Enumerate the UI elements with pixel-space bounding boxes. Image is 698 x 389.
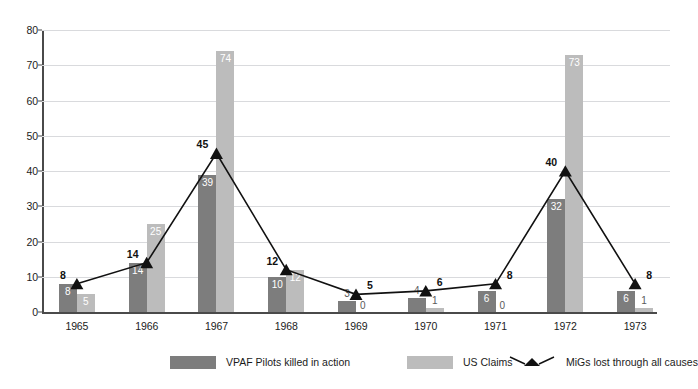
line-point-value-label: 40 <box>545 157 557 168</box>
x-axis-baseline <box>42 312 657 314</box>
legend-label: VPAF Pilots killed in action <box>226 356 350 368</box>
y-axis-tick-label: 80 <box>4 24 38 36</box>
x-axis-tick-label: 1969 <box>345 320 368 332</box>
bar-value-label: 6 <box>484 293 490 304</box>
x-axis-tick-label: 1968 <box>275 320 298 332</box>
bar: 1 <box>426 308 444 312</box>
bar: 5 <box>77 294 95 312</box>
triangle-marker <box>419 285 432 296</box>
bar-value-label: 74 <box>220 53 231 64</box>
line-point-value-label: 8 <box>646 270 652 281</box>
bar: 6 <box>478 291 496 312</box>
y-axis-tick-label: 20 <box>4 236 38 248</box>
bar-value-label: 25 <box>150 226 161 237</box>
bar: 39 <box>198 175 216 312</box>
y-axis-tick-label: 10 <box>4 271 38 283</box>
line-point-value-label: 12 <box>266 256 278 267</box>
bar: 12 <box>286 270 304 312</box>
bar-value-label: 1 <box>432 295 438 306</box>
x-axis-tick-label: 1970 <box>414 320 437 332</box>
line-point-value-label: 6 <box>437 277 443 288</box>
x-axis-tick-label: 1971 <box>484 320 507 332</box>
bar-value-label: 8 <box>65 286 71 297</box>
x-axis-tick-label: 1972 <box>554 320 577 332</box>
legend-item[interactable]: MiGs lost through all causes <box>508 352 698 372</box>
bar-value-label: 39 <box>202 177 213 188</box>
triangle-marker <box>489 278 502 289</box>
line-point-value-label: 45 <box>197 139 209 150</box>
bar-value-label: 4 <box>414 285 420 296</box>
light-square-swatch <box>407 356 453 369</box>
bar-value-label: 73 <box>569 57 580 68</box>
x-axis-tick-label: 1967 <box>205 320 228 332</box>
plot-area: 851425397410123041603273618144512568408 <box>42 30 670 312</box>
line-point-value-label: 8 <box>60 270 66 281</box>
bar: 14 <box>129 263 147 312</box>
bar-value-label: 14 <box>132 265 143 276</box>
y-axis-tick-group: 01020304050607080 <box>0 30 38 312</box>
gridline <box>42 30 670 31</box>
bar-value-label: 10 <box>272 279 283 290</box>
triangle-marker <box>629 278 642 289</box>
bar-value-label: 5 <box>83 296 89 307</box>
bar-value-label: 0 <box>500 300 506 311</box>
y-axis-tick-label: 50 <box>4 130 38 142</box>
bar-value-label: 0 <box>360 300 366 311</box>
triangle-line-marker-icon <box>508 354 556 370</box>
legend-label: MiGs lost through all causes <box>566 356 698 368</box>
bar-value-label: 6 <box>623 293 629 304</box>
bar: 8 <box>59 284 77 312</box>
y-axis-tick-label: 70 <box>4 59 38 71</box>
bar: 4 <box>408 298 426 312</box>
bar: 74 <box>216 51 234 312</box>
line-point-value-label: 14 <box>127 249 139 260</box>
bar: 73 <box>565 55 583 312</box>
x-axis-tick-label: 1965 <box>65 320 88 332</box>
y-axis-tick-label: 60 <box>4 95 38 107</box>
chart-legend: VPAF Pilots killed in actionUS ClaimsMiG… <box>0 352 692 378</box>
y-axis-tick-label: 30 <box>4 200 38 212</box>
legend-label: US Claims <box>463 356 513 368</box>
x-axis-tick-label: 1973 <box>624 320 647 332</box>
bar: 25 <box>147 224 165 312</box>
triangle-marker <box>350 289 363 300</box>
line-point-value-label: 8 <box>507 270 513 281</box>
line-point-value-label: 5 <box>367 280 373 291</box>
bar: 10 <box>268 277 286 312</box>
bar: 3 <box>338 301 356 312</box>
bar-value-label: 3 <box>344 288 350 299</box>
dark-square-swatch <box>170 356 216 369</box>
legend-item[interactable]: VPAF Pilots killed in action <box>170 352 350 372</box>
bar-value-label: 32 <box>551 201 562 212</box>
bar: 6 <box>617 291 635 312</box>
bar: 32 <box>547 199 565 312</box>
legend-item[interactable]: US Claims <box>407 352 513 372</box>
y-axis-tick-label: 0 <box>4 306 38 318</box>
bar: 1 <box>635 308 653 312</box>
y-axis-tick-label: 40 <box>4 165 38 177</box>
bar-value-label: 1 <box>641 295 647 306</box>
x-axis-tick-label: 1966 <box>135 320 158 332</box>
bar-value-label: 12 <box>290 272 301 283</box>
